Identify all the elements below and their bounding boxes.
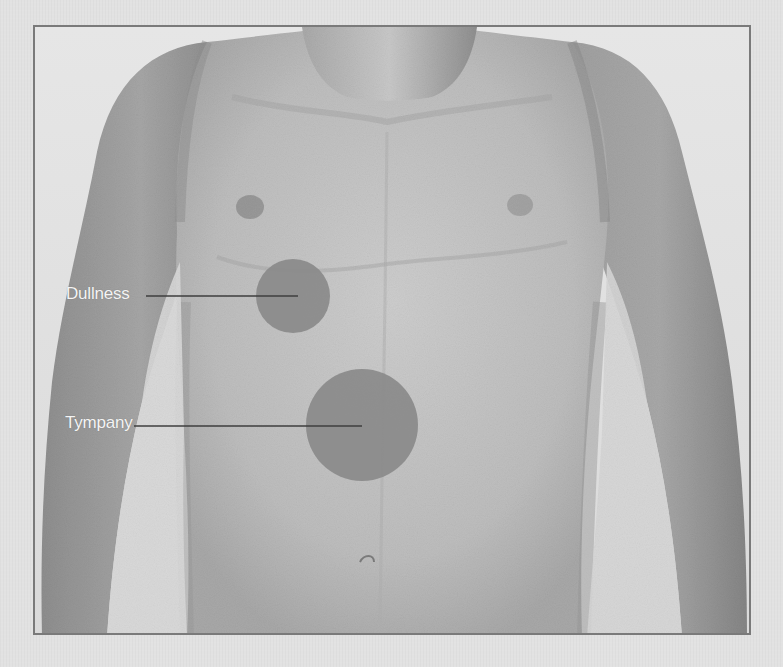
tympany-region-circle — [306, 369, 418, 481]
dullness-label: Dullness — [66, 284, 130, 304]
left-nipple — [236, 195, 264, 219]
right-nipple — [507, 194, 533, 216]
figure-photo-frame — [33, 25, 751, 635]
torso-photo — [35, 27, 751, 635]
tympany-label: Tympany — [65, 413, 133, 433]
